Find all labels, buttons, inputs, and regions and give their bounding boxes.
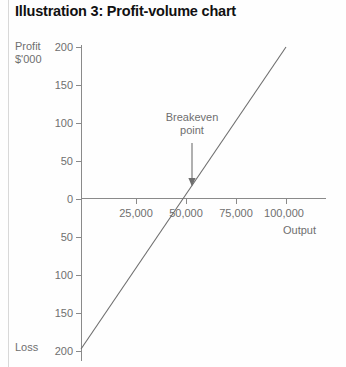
profit-volume-chart: 200 150 100 50 0 50 100 150 200 25,000 5… (0, 0, 346, 367)
chart-overlay (0, 0, 346, 367)
page-canvas: Illustration 3: Profit-volume chart 200 … (0, 0, 346, 367)
profit-series-line (81, 47, 286, 349)
breakeven-arrow-icon (188, 143, 195, 187)
